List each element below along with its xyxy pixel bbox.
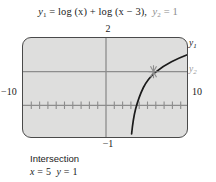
calculator-screen <box>22 37 188 138</box>
series-label-y2: y2 <box>189 64 197 74</box>
equation-y2-expression: = 1 <box>161 6 178 17</box>
readout-values: x = 5 y = 1 <box>30 165 79 178</box>
readout-x-value: = 5 <box>35 166 51 177</box>
axis-label-ymax: 2 <box>0 23 216 34</box>
equation-header: y1 = log (x) + log (x − 3), y2 = 1 <box>0 6 216 17</box>
readout-y-value: = 1 <box>61 166 77 177</box>
axis-label-xmax: 10 <box>192 86 202 97</box>
equation-y1-subscript: 1 <box>43 11 47 19</box>
readout-title: Intersection <box>30 152 79 165</box>
intersection-readout: Intersection x = 5 y = 1 <box>30 152 79 178</box>
y1-curve <box>132 54 188 134</box>
plot-canvas <box>23 38 188 138</box>
intersection-cursor-icon <box>149 65 159 78</box>
series-label-y1: y1 <box>189 38 197 48</box>
graphing-calculator-figure: y1 = log (x) + log (x − 3), y2 = 1 2 <box>0 0 216 182</box>
axis-label-xmin: −10 <box>1 86 17 97</box>
equation-y1-expression: = log (x) + log (x − 3), <box>47 6 147 17</box>
axis-label-ymin: −1 <box>0 138 216 149</box>
equation-y2-subscript: 2 <box>157 11 161 19</box>
